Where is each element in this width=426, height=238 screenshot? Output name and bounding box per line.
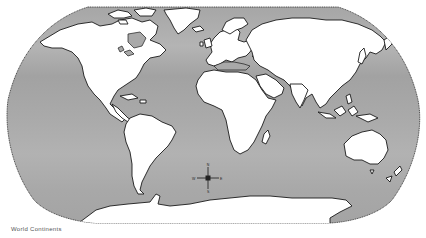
map-caption: World Continents xyxy=(11,226,62,232)
world-map-svg: N S E W xyxy=(0,0,426,238)
world-map: N S E W World Continents xyxy=(0,0,426,238)
